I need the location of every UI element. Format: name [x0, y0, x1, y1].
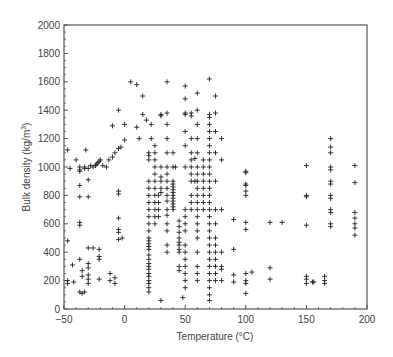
- data-point-plus: [207, 221, 212, 226]
- data-point-plus: [116, 108, 121, 113]
- data-point-plus: [195, 221, 200, 226]
- data-point-plus: [165, 186, 170, 191]
- data-point-plus: [207, 257, 212, 262]
- data-point-plus: [195, 150, 200, 155]
- data-point-plus: [65, 281, 70, 286]
- data-point-plus: [140, 94, 145, 99]
- data-point-plus: [65, 238, 70, 243]
- x-tick-label: 0: [122, 314, 128, 325]
- data-point-plus: [189, 200, 194, 205]
- data-point-plus: [189, 136, 194, 141]
- data-point-plus: [304, 281, 309, 286]
- data-point-plus: [77, 223, 82, 228]
- data-point-plus: [112, 281, 117, 286]
- data-point-plus: [328, 210, 333, 215]
- x-tick-label: 100: [237, 314, 254, 325]
- x-tick-label: 200: [359, 314, 376, 325]
- data-point-plus: [207, 271, 212, 276]
- data-point-plus: [207, 228, 212, 233]
- data-point-plus: [77, 194, 82, 199]
- data-point-plus: [231, 247, 236, 252]
- data-point-plus: [183, 250, 188, 255]
- data-point-plus: [165, 243, 170, 248]
- data-point-plus: [91, 245, 96, 250]
- data-point-plus: [213, 250, 218, 255]
- data-point-plus: [77, 183, 82, 188]
- data-point-plus: [183, 221, 188, 226]
- data-point-plus: [183, 214, 188, 219]
- data-point-plus: [243, 271, 248, 276]
- data-point-plus: [146, 253, 151, 258]
- data-point-plus: [152, 179, 157, 184]
- data-point-plus: [231, 272, 236, 277]
- data-point-plus: [152, 157, 157, 162]
- data-point-plus: [152, 143, 157, 148]
- data-point-plus: [213, 111, 218, 116]
- data-point-plus: [71, 280, 76, 285]
- data-point-plus: [165, 79, 170, 84]
- data-point-plus: [158, 190, 163, 195]
- data-point-plus: [219, 157, 224, 162]
- data-point-plus: [195, 200, 200, 205]
- data-point-plus: [146, 150, 151, 155]
- data-point-plus: [112, 150, 117, 155]
- data-point-plus: [207, 207, 212, 212]
- data-point-plus: [195, 108, 200, 113]
- data-point-plus: [152, 221, 157, 226]
- data-point-plus: [328, 196, 333, 201]
- data-point-plus: [137, 136, 142, 141]
- data-point-plus: [207, 278, 212, 283]
- data-point-plus: [207, 193, 212, 198]
- data-point-plus: [156, 200, 161, 205]
- data-point-plus: [195, 186, 200, 191]
- data-point-plus: [165, 150, 170, 155]
- data-point-plus: [144, 118, 149, 123]
- data-point-plus: [112, 275, 117, 280]
- data-point-plus: [146, 157, 151, 162]
- data-point-plus: [183, 143, 188, 148]
- data-point-plus: [171, 207, 176, 212]
- data-point-plus: [207, 285, 212, 290]
- data-point-plus: [243, 189, 248, 194]
- data-point-plus: [74, 157, 79, 162]
- data-point-plus: [165, 179, 170, 184]
- data-point-plus: [158, 179, 163, 184]
- data-point-plus: [122, 138, 127, 143]
- data-point-plus: [201, 186, 206, 191]
- data-point-plus: [352, 163, 357, 168]
- data-point-plus: [180, 295, 185, 300]
- y-tick-label: 1800: [38, 48, 61, 59]
- data-point-plus: [97, 247, 102, 252]
- data-point-plus: [213, 221, 218, 226]
- data-point-plus: [83, 147, 88, 152]
- data-point-plus: [165, 207, 170, 212]
- data-point-plus: [97, 277, 102, 282]
- data-point-plus: [207, 165, 212, 170]
- data-point-plus: [201, 172, 206, 177]
- data-point-plus: [207, 122, 212, 127]
- data-point-plus: [207, 172, 212, 177]
- data-point-plus: [207, 157, 212, 162]
- data-point-plus: [195, 236, 200, 241]
- data-point-plus: [207, 214, 212, 219]
- data-point-plus: [158, 298, 163, 303]
- data-point-plus: [268, 265, 273, 270]
- data-point-plus: [207, 200, 212, 205]
- data-point-plus: [213, 94, 218, 99]
- data-point-plus: [165, 122, 170, 127]
- data-point-plus: [86, 277, 91, 282]
- data-point-plus: [80, 274, 85, 279]
- data-point-plus: [195, 122, 200, 127]
- data-point-plus: [70, 262, 75, 267]
- data-point-plus: [177, 264, 182, 269]
- data-point-plus: [116, 230, 121, 235]
- y-tick-label: 1200: [38, 133, 61, 144]
- data-point-plus: [165, 193, 170, 198]
- data-point-plus: [156, 207, 161, 212]
- data-point-plus: [183, 285, 188, 290]
- data-point-plus: [158, 186, 163, 191]
- data-point-plus: [195, 250, 200, 255]
- data-point-plus: [195, 271, 200, 276]
- data-point-plus: [86, 281, 91, 286]
- data-point-plus: [201, 193, 206, 198]
